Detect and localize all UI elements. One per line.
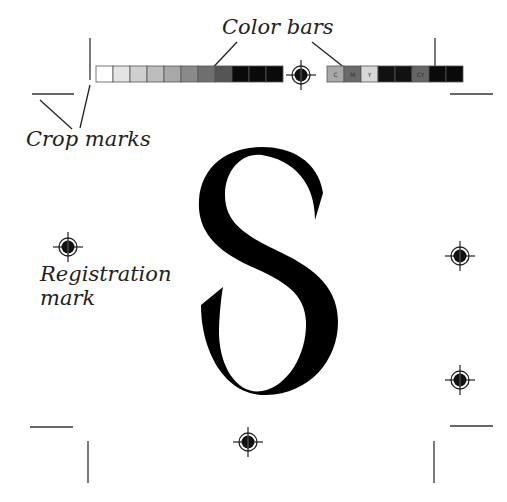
leader-lines	[40, 42, 350, 129]
color-swatch	[96, 66, 113, 82]
color-swatch	[249, 66, 266, 82]
color-swatch	[215, 66, 232, 82]
registration-mark-bottom	[233, 427, 263, 457]
color-swatch	[446, 66, 463, 82]
svg-text:Y: Y	[367, 71, 372, 78]
svg-text:M: M	[350, 71, 355, 78]
color-swatch	[147, 66, 164, 82]
svg-text:C: C	[333, 71, 337, 78]
color-bar-left	[96, 66, 283, 82]
color-swatch	[198, 66, 215, 82]
color-swatch	[130, 66, 147, 82]
color-swatch	[181, 66, 198, 82]
color-swatch	[113, 66, 130, 82]
printers-marks-diagram: CMYCY	[0, 0, 507, 502]
label-registration-mark: Registration mark	[40, 262, 172, 310]
registration-mark-right-lower	[445, 365, 475, 395]
registration-mark-right-upper	[445, 241, 475, 271]
letter-s-glyph	[199, 147, 338, 395]
color-swatch	[378, 66, 395, 82]
color-swatch	[266, 66, 283, 82]
registration-mark-top	[286, 60, 316, 90]
label-registration-line2: mark	[40, 286, 172, 310]
registration-mark-left	[53, 232, 83, 262]
color-swatch	[395, 66, 412, 82]
label-crop-marks: Crop marks	[26, 128, 151, 151]
color-bar-right: CMYCY	[327, 66, 463, 82]
label-registration-line1: Registration	[40, 262, 172, 286]
label-color-bars: Color bars	[222, 16, 334, 39]
color-swatch	[232, 66, 249, 82]
svg-text:CY: CY	[417, 71, 425, 78]
color-swatch	[429, 66, 446, 82]
color-swatch	[164, 66, 181, 82]
